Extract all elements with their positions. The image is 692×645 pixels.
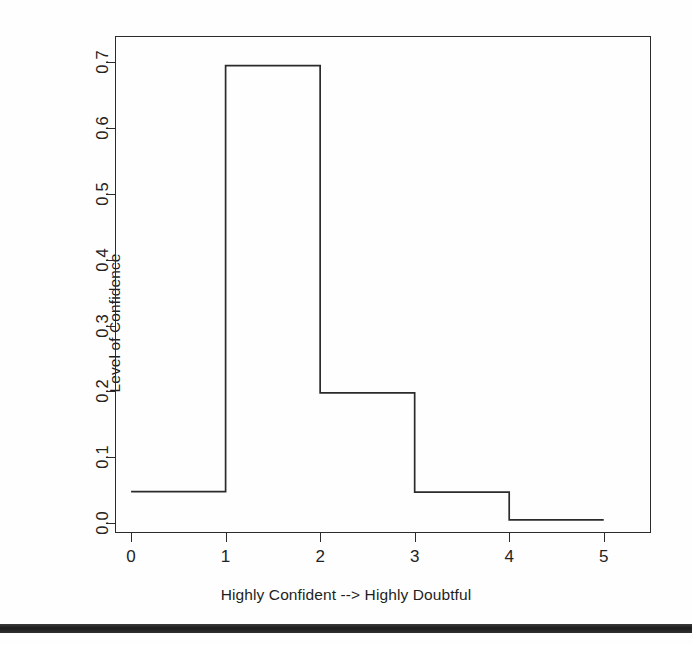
x-tick-label: 5 xyxy=(599,547,608,567)
plot-area: 0.00.10.20.30.40.50.60.7 012345 xyxy=(115,36,651,533)
figure-page: Level of Confidence 0.00.10.20.30.40.50.… xyxy=(0,0,692,645)
y-tick-label: 0.2 xyxy=(94,391,113,415)
x-tick-mark xyxy=(320,533,321,542)
x-tick-mark xyxy=(226,533,227,542)
y-tick-label-text: 0.0 xyxy=(94,511,113,535)
x-axis-title: Highly Confident --> Highly Doubtful xyxy=(0,586,692,604)
histogram-step-outline xyxy=(115,36,651,533)
x-tick-mark xyxy=(604,533,605,542)
y-tick-label: 0.3 xyxy=(94,326,113,350)
y-tick-label-text: 0.1 xyxy=(94,446,113,470)
y-tick-label-text: 0.6 xyxy=(94,116,113,140)
y-tick-label: 0.0 xyxy=(94,523,113,547)
x-tick-label: 2 xyxy=(315,547,324,567)
y-tick-label: 0.5 xyxy=(94,194,113,218)
y-tick-label: 0.1 xyxy=(94,457,113,481)
x-tick-label: 0 xyxy=(126,547,135,567)
y-tick-label: 0.4 xyxy=(94,260,113,284)
step-polyline xyxy=(131,66,604,520)
y-tick-label-text: 0.7 xyxy=(94,51,113,75)
page-divider-rule xyxy=(0,624,692,633)
y-tick-label-text: 0.2 xyxy=(94,380,113,404)
y-tick-label-text: 0.4 xyxy=(94,248,113,272)
y-tick-label: 0.7 xyxy=(94,62,113,86)
y-tick-label-text: 0.3 xyxy=(94,314,113,338)
x-tick-label: 1 xyxy=(221,547,230,567)
x-tick-mark xyxy=(415,533,416,542)
x-tick-mark xyxy=(131,533,132,542)
x-tick-label: 3 xyxy=(410,547,419,567)
y-tick-label: 0.6 xyxy=(94,128,113,152)
x-tick-label: 4 xyxy=(504,547,513,567)
x-tick-mark xyxy=(509,533,510,542)
y-tick-label-text: 0.5 xyxy=(94,182,113,206)
